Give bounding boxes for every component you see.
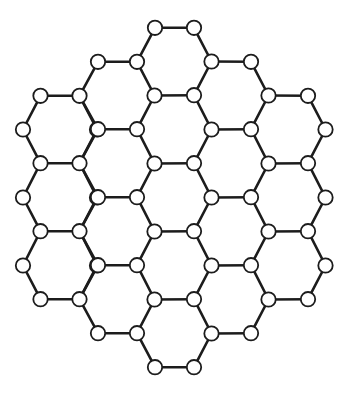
atom-node-circle-icon [72,89,86,103]
atom-node-circle-icon [318,122,332,136]
atom-node-circle-icon [91,122,105,136]
atom-node-circle-icon [301,292,315,306]
atom-node-circle-icon [261,292,275,306]
atom-node-circle-icon [318,258,332,272]
atom-node-circle-icon [72,224,86,238]
atom-node-circle-icon [72,292,86,306]
atom-node-circle-icon [187,88,201,102]
atom-node-circle-icon [130,258,144,272]
atom-node-circle-icon [301,224,315,238]
atom-node-circle-icon [16,190,30,204]
atom-node-circle-icon [148,360,162,374]
atom-node-circle-icon [261,88,275,102]
atom-node-circle-icon [244,55,258,69]
lattice-svg [0,0,352,397]
atom-node-circle-icon [244,258,258,272]
atom-node-circle-icon [187,156,201,170]
atom-node-circle-icon [33,292,47,306]
atom-node-circle-icon [72,156,86,170]
atom-node-circle-icon [244,122,258,136]
atom-node-circle-icon [130,326,144,340]
atom-node-circle-icon [130,122,144,136]
atom-node-circle-icon [187,292,201,306]
atom-node-circle-icon [261,156,275,170]
atom-node-circle-icon [204,326,218,340]
atom-node-circle-icon [33,224,47,238]
atom-node-circle-icon [130,190,144,204]
atom-node-circle-icon [148,21,162,35]
atom-node-circle-icon [16,258,30,272]
atom-node-circle-icon [147,156,161,170]
atom-node-circle-icon [16,122,30,136]
atom-layer [16,21,333,375]
atom-node-circle-icon [187,360,201,374]
atom-node-circle-icon [204,54,218,68]
atom-node-circle-icon [301,156,315,170]
atom-node-circle-icon [204,122,218,136]
atom-node-circle-icon [261,224,275,238]
atom-node-circle-icon [33,156,47,170]
atom-node-circle-icon [187,224,201,238]
atom-node-circle-icon [91,55,105,69]
atom-node-circle-icon [318,190,332,204]
atom-node-circle-icon [91,190,105,204]
atom-node-circle-icon [301,89,315,103]
atom-node-circle-icon [204,258,218,272]
atom-node-circle-icon [91,326,105,340]
atom-node-circle-icon [244,190,258,204]
atom-node-circle-icon [187,21,201,35]
atom-node-circle-icon [147,292,161,306]
atom-node-circle-icon [147,224,161,238]
atom-node-circle-icon [244,326,258,340]
atom-node-circle-icon [130,55,144,69]
atom-node-circle-icon [91,258,105,272]
atom-node-circle-icon [204,190,218,204]
atom-node-circle-icon [147,88,161,102]
hexagonal-lattice-diagram [0,0,352,397]
bond-layer [23,28,326,367]
atom-node-circle-icon [33,89,47,103]
